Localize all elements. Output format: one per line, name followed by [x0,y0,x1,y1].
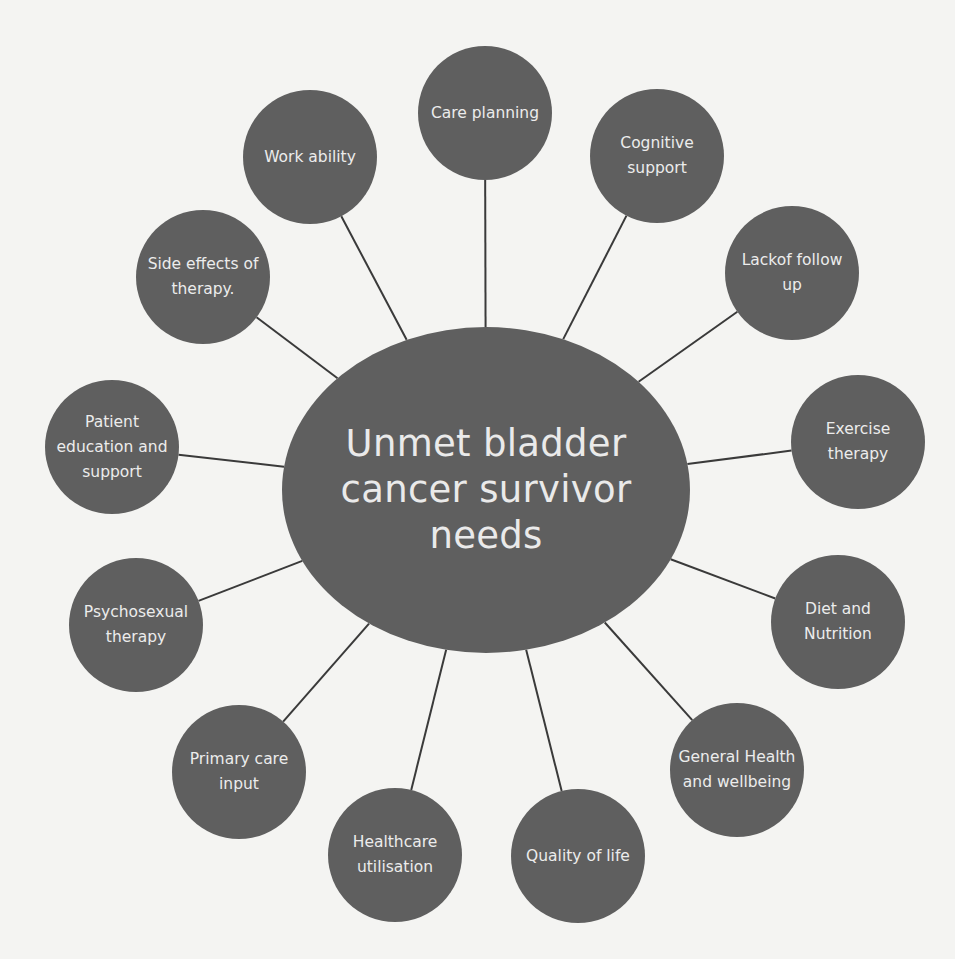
node-exercise-therapy: Exercise therapy [791,375,925,509]
node-cognitive-support: Cognitive support [590,89,724,223]
connector-line [257,317,338,378]
node-label: Work ability [250,145,370,170]
node-label: Diet and Nutrition [778,597,898,647]
node-label: Primary care input [179,747,299,797]
connector-line [687,451,791,464]
node-primary-care-input: Primary care input [172,705,306,839]
node-label: Lackof follow up [732,248,852,298]
connector-line [283,624,369,722]
node-general-health: General Health and wellbeing [670,703,804,837]
node-care-planning: Care planning [418,46,552,180]
connector-line [605,623,692,721]
connector-line [411,650,446,790]
node-label: Exercise therapy [798,417,918,467]
connector-line [526,650,561,791]
connector-line [341,216,406,340]
node-label: Patient education and support [52,410,172,485]
node-patient-education: Patient education and support [45,380,179,514]
node-label: Healthcare utilisation [335,830,455,880]
node-diet-and-nutrition: Diet and Nutrition [771,555,905,689]
node-label: Side effects of therapy. [143,252,263,302]
central-hub: Unmet bladder cancer survivor needs [282,327,690,653]
node-quality-of-life: Quality of life [511,789,645,923]
node-label: Psychosexual therapy [76,600,196,650]
connector-line [671,559,776,598]
connector-line [199,561,303,601]
connector-line [179,455,285,467]
hub-label: Unmet bladder cancer survivor needs [336,421,636,559]
node-label: Cognitive support [597,131,717,181]
node-label: Quality of life [518,844,638,869]
node-label: Care planning [425,101,545,126]
node-label: General Health and wellbeing [677,745,797,795]
needs-diagram: Unmet bladder cancer survivor needs Care… [0,0,955,959]
connector-line [639,312,738,382]
node-work-ability: Work ability [243,90,377,224]
node-psychosexual-therapy: Psychosexual therapy [69,558,203,692]
node-side-effects: Side effects of therapy. [136,210,270,344]
connector-line [563,216,626,339]
node-lack-of-follow-up: Lackof follow up [725,206,859,340]
node-healthcare-utilisation: Healthcare utilisation [328,788,462,922]
